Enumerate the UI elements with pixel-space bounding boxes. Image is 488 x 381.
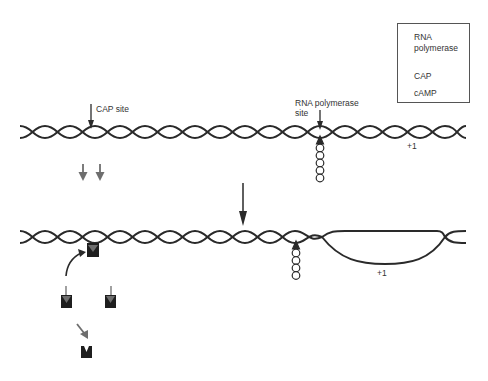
camp-cap-complex-free-2: [105, 286, 116, 308]
legend-rna-label-line1: RNA: [414, 32, 432, 42]
cap-site-label: CAP site: [96, 104, 129, 114]
legend-rna-label-line2: polymerase: [414, 43, 458, 53]
camp-cap-complex-free-1: [61, 286, 72, 308]
camp-free: [81, 346, 92, 358]
cap-arrow-icon: [96, 164, 105, 181]
free-cap-proteins: [79, 164, 105, 181]
rna-polymerase-bottom: [292, 241, 300, 279]
legend-cap-label: CAP: [414, 71, 431, 81]
rna-polymerase-site-label-line2: site: [295, 108, 308, 118]
rna-polymerase-top: [316, 136, 324, 182]
dna-helix-bottom: [20, 231, 466, 264]
dna-helix-top: [20, 126, 466, 138]
camp-cap-complex-bound: [87, 243, 99, 257]
cap-arrow-icon: [79, 164, 88, 181]
dissociation-arrow: [77, 324, 88, 339]
binding-curved-arrow: [66, 249, 86, 276]
rna-polymerase-site-label-line1: RNA polymerase: [295, 98, 359, 108]
plus-one-top-label: +1: [407, 141, 417, 151]
open-complex-bubble-top-strand: [322, 231, 445, 237]
legend-camp-label: cAMP: [414, 88, 437, 98]
transition-arrow: [239, 183, 247, 226]
plus-one-bottom-label: +1: [377, 268, 387, 278]
open-complex-bubble-bottom-strand: [322, 237, 445, 264]
